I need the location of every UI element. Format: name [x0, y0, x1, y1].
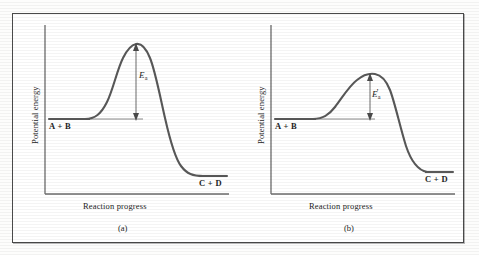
panel-a-activation-subscript: a [145, 74, 148, 81]
panel-a-y-axis-label: Potential energy [31, 86, 40, 144]
panel-a: Potential energy A + B C + D Ea Reaction… [13, 14, 239, 244]
panel-b-y-axis-label: Potential energy [257, 86, 266, 144]
energy-profile-curve [49, 44, 227, 176]
panel-b: Potential energy A + B C + D Ea' Reactio… [239, 14, 465, 244]
panel-a-caption: (a) [118, 224, 127, 233]
panel-b-activation-subscript: a [378, 93, 381, 100]
figure-container: Potential energy A + B C + D Ea Reaction… [0, 0, 479, 255]
panel-b-x-axis-label: Reaction progress [309, 202, 373, 211]
figure-frame: Potential energy A + B C + D Ea Reaction… [12, 13, 464, 243]
panel-b-caption: (b) [344, 224, 354, 233]
activation-energy-arrow [133, 43, 139, 121]
panel-b-reactant-label: A + B [275, 122, 297, 131]
panel-a-product-label: C + D [199, 179, 222, 188]
panel-b-activation-energy-label: Ea' [372, 90, 382, 99]
panel-a-activation-energy-label: Ea [139, 71, 147, 80]
panel-a-x-axis-label: Reaction progress [83, 202, 147, 211]
panel-b-product-label: C + D [425, 175, 448, 184]
panel-a-activation-symbol: E [139, 70, 145, 80]
energy-profile-curve [275, 74, 453, 172]
panel-a-reactant-label: A + B [49, 122, 71, 131]
